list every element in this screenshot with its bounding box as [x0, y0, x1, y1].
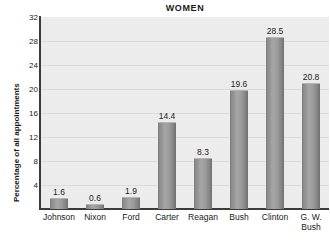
bar[interactable]	[194, 158, 212, 209]
chart-title: WOMEN	[40, 3, 330, 13]
bars-container: 1.60.61.914.48.319.628.520.8	[41, 17, 329, 209]
y-tick-label: 12	[4, 133, 38, 142]
bar-value-label: 19.6	[231, 79, 248, 89]
bar[interactable]	[50, 198, 68, 209]
bar-value-label: 28.5	[267, 26, 284, 36]
x-tick-label: G. W. Bush	[293, 212, 329, 232]
bar-group[interactable]: 1.9	[122, 17, 140, 209]
bar-group[interactable]: 8.3	[194, 17, 212, 209]
bar-value-label: 20.8	[303, 72, 320, 82]
bar-group[interactable]: 1.6	[50, 17, 68, 209]
x-tick-label: Nixon	[77, 212, 113, 222]
bar[interactable]	[302, 83, 320, 209]
bar-group[interactable]: 0.6	[86, 17, 104, 209]
bar-group[interactable]: 14.4	[158, 17, 176, 209]
x-tick-label: Johnson	[41, 212, 77, 222]
bar-chart: WOMEN Percentage of all appointments 481…	[0, 0, 330, 242]
bar-value-label: 0.6	[89, 193, 101, 203]
y-tick-label: 16	[4, 109, 38, 118]
bar-value-label: 1.9	[125, 186, 137, 196]
y-axis-ticks: 48121620242832	[0, 0, 38, 242]
y-tick-label: 28	[4, 37, 38, 46]
bar[interactable]	[122, 197, 140, 209]
bar-value-label: 1.6	[53, 187, 65, 197]
x-tick-label: Clinton	[257, 212, 293, 222]
bar[interactable]	[86, 204, 104, 209]
y-tick-label: 32	[4, 13, 38, 22]
x-tick-label: Reagan	[185, 212, 221, 222]
bar-value-label: 14.4	[159, 111, 176, 121]
bar[interactable]	[158, 122, 176, 209]
x-tick-label: Ford	[113, 212, 149, 222]
bar-group[interactable]: 20.8	[302, 17, 320, 209]
bar-value-label: 8.3	[197, 147, 209, 157]
x-tick-label: Carter	[149, 212, 185, 222]
x-axis-ticks: JohnsonNixonFordCarterReaganBushClintonG…	[41, 212, 329, 242]
bar-group[interactable]: 19.6	[230, 17, 248, 209]
y-tick-label: 4	[4, 181, 38, 190]
bar[interactable]	[266, 37, 284, 209]
bar-group[interactable]: 28.5	[266, 17, 284, 209]
y-tick-label: 8	[4, 157, 38, 166]
bar[interactable]	[230, 90, 248, 209]
y-tick-label: 20	[4, 85, 38, 94]
x-tick-label: Bush	[221, 212, 257, 222]
y-tick-label: 24	[4, 61, 38, 70]
